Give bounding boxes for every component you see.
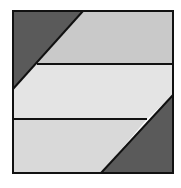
square-dissection-diagram	[0, 0, 181, 188]
middle-band-region	[13, 64, 173, 119]
regions-group	[13, 11, 173, 173]
